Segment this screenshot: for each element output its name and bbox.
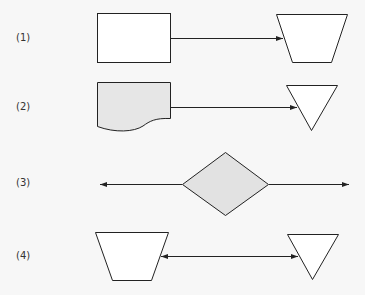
decision-diamond bbox=[183, 153, 269, 216]
process-rectangle bbox=[98, 14, 171, 63]
document-shape bbox=[98, 83, 171, 131]
manual-operation-trapezoid-4 bbox=[96, 233, 169, 281]
flowchart-canvas bbox=[0, 0, 365, 295]
manual-operation-trapezoid bbox=[277, 15, 348, 63]
